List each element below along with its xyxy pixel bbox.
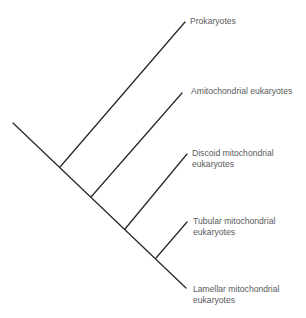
label-line: Prokaryotes	[190, 16, 236, 27]
label-line: Discoid mitochondrial	[192, 148, 274, 159]
label-line: eukaryotes	[192, 159, 274, 170]
branch-prokaryotes	[60, 22, 185, 167]
label-line: eukaryotes	[193, 295, 279, 306]
label-lamellar: Lamellar mitochondrial eukaryotes	[193, 284, 279, 306]
branch-amitochondrial	[91, 93, 182, 197]
label-line: Lamellar mitochondrial	[193, 284, 279, 295]
label-amitochondrial: Amitochondrial eukaryotes	[191, 86, 292, 97]
label-line: eukaryotes	[193, 227, 275, 238]
label-line: Tubular mitochondrial	[193, 216, 275, 227]
label-line: Amitochondrial eukaryotes	[191, 86, 292, 97]
branch-tubular	[156, 222, 187, 258]
main-stem	[13, 123, 186, 288]
branch-discoid	[125, 154, 187, 229]
label-prokaryotes: Prokaryotes	[190, 16, 236, 27]
label-tubular: Tubular mitochondrial eukaryotes	[193, 216, 275, 238]
label-discoid: Discoid mitochondrial eukaryotes	[192, 148, 274, 170]
